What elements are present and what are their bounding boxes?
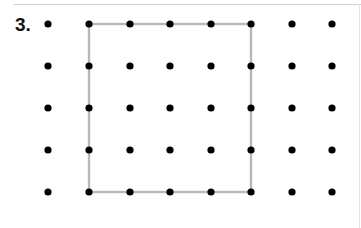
dot-grid-diagram [0, 0, 361, 228]
grid-dot [166, 146, 173, 153]
grid-dot [288, 20, 295, 27]
grid-dot [247, 20, 254, 27]
grid-dot [247, 104, 254, 111]
grid-dot [85, 146, 92, 153]
grid-dot [247, 62, 254, 69]
grid-dot [44, 188, 51, 195]
grid-dot [126, 188, 133, 195]
grid-dot [126, 146, 133, 153]
grid-dot [85, 62, 92, 69]
grid-dot [328, 62, 335, 69]
grid-dot [126, 62, 133, 69]
grid-dot [44, 104, 51, 111]
grid-dot [166, 104, 173, 111]
grid-dot [166, 188, 173, 195]
grid-dot [207, 104, 214, 111]
grid-dot [247, 146, 254, 153]
grid-dot [207, 62, 214, 69]
grid-dot [85, 188, 92, 195]
grid-dot [328, 188, 335, 195]
grid-dot [44, 20, 51, 27]
grid-dot [288, 188, 295, 195]
grid-dot [126, 104, 133, 111]
grid-dot [85, 104, 92, 111]
grid-dot [166, 20, 173, 27]
grid-dot [44, 146, 51, 153]
grid-dot [288, 62, 295, 69]
grid-dot [126, 20, 133, 27]
grid-dot [207, 20, 214, 27]
grid-dot [247, 188, 254, 195]
grid-dot [288, 104, 295, 111]
grid-dot [288, 146, 295, 153]
grid-dot [207, 188, 214, 195]
grid-dot [166, 62, 173, 69]
grid-dot [328, 146, 335, 153]
grid-dot [328, 20, 335, 27]
grid-dot [85, 20, 92, 27]
grid-dot [44, 62, 51, 69]
grid-dot [328, 104, 335, 111]
grid-dot [207, 146, 214, 153]
